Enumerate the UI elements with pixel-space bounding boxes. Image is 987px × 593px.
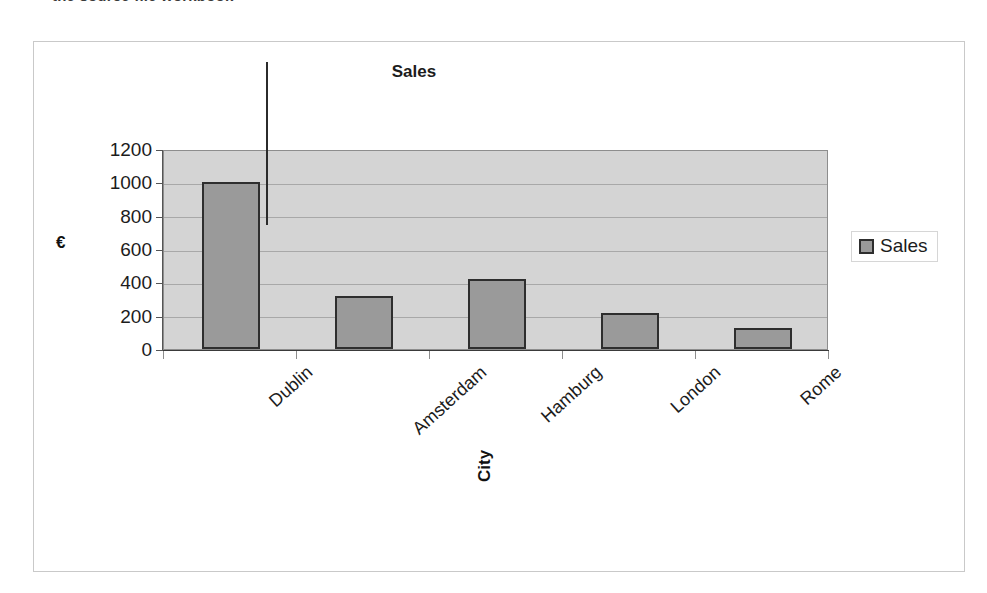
x-axis-title: City bbox=[475, 450, 495, 482]
y-tick-label: 400 bbox=[82, 272, 152, 294]
y-tick-label: 1000 bbox=[82, 172, 152, 194]
top-caption-text: the source file workbook bbox=[52, 0, 234, 4]
bar-london[interactable] bbox=[601, 313, 659, 349]
x-tick-mark bbox=[429, 351, 430, 359]
y-axis-tick-labels: 020040060080010001200 bbox=[76, 150, 152, 350]
x-tick-mark bbox=[163, 351, 164, 359]
y-tick-label: 800 bbox=[82, 206, 152, 228]
legend[interactable]: Sales bbox=[851, 231, 938, 262]
x-tick-mark bbox=[828, 351, 829, 359]
chart-title: Sales bbox=[34, 62, 794, 82]
y-tick-mark bbox=[156, 317, 163, 318]
chart-frame: Sales 020040060080010001200 € DublinAmst… bbox=[33, 41, 965, 572]
y-tick-label: 200 bbox=[82, 306, 152, 328]
y-tick-label: 600 bbox=[82, 239, 152, 261]
bar-hamburg[interactable] bbox=[468, 279, 526, 349]
y-tick-mark bbox=[156, 150, 163, 151]
x-tick-mark bbox=[296, 351, 297, 359]
y-tick-mark bbox=[156, 250, 163, 251]
y-tick-mark bbox=[156, 183, 163, 184]
y-axis-title: € bbox=[56, 233, 65, 253]
bar-rome[interactable] bbox=[734, 328, 792, 349]
y-tick-label: 1200 bbox=[82, 139, 152, 161]
gridline-1000 bbox=[164, 184, 827, 185]
legend-series-label: Sales bbox=[880, 235, 928, 257]
gridline-800 bbox=[164, 217, 827, 218]
y-tick-label: 0 bbox=[82, 339, 152, 361]
x-axis-line bbox=[163, 350, 829, 351]
x-tick-mark bbox=[695, 351, 696, 359]
legend-square-icon bbox=[859, 239, 874, 254]
y-tick-mark bbox=[156, 217, 163, 218]
x-tick-label-rome: Rome bbox=[796, 362, 846, 410]
x-tick-label-hamburg: Hamburg bbox=[537, 362, 606, 427]
callout-leader-line bbox=[266, 62, 268, 225]
y-tick-mark bbox=[156, 283, 163, 284]
x-tick-mark bbox=[562, 351, 563, 359]
bar-dublin[interactable] bbox=[202, 182, 260, 349]
y-tick-mark bbox=[156, 350, 163, 351]
plot-area bbox=[163, 150, 828, 350]
x-tick-label-amsterdam: Amsterdam bbox=[408, 362, 490, 439]
gridline-600 bbox=[164, 251, 827, 252]
bar-amsterdam[interactable] bbox=[335, 296, 393, 349]
x-tick-label-dublin: Dublin bbox=[265, 362, 317, 412]
x-tick-label-london: London bbox=[666, 362, 725, 418]
